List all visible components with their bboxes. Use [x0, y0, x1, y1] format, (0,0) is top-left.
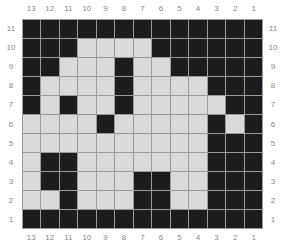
filled-cell[interactable] [171, 39, 188, 57]
filled-cell[interactable] [23, 96, 40, 114]
empty-cell[interactable] [189, 191, 206, 209]
filled-cell[interactable] [134, 20, 151, 38]
filled-cell[interactable] [23, 58, 40, 76]
empty-cell[interactable] [152, 115, 169, 133]
filled-cell[interactable] [134, 172, 151, 190]
empty-cell[interactable] [115, 172, 132, 190]
empty-cell[interactable] [78, 77, 95, 95]
filled-cell[interactable] [78, 20, 95, 38]
filled-cell[interactable] [60, 191, 77, 209]
filled-cell[interactable] [226, 191, 243, 209]
empty-cell[interactable] [97, 39, 114, 57]
filled-cell[interactable] [152, 172, 169, 190]
filled-cell[interactable] [208, 20, 225, 38]
empty-cell[interactable] [41, 115, 58, 133]
empty-cell[interactable] [23, 172, 40, 190]
filled-cell[interactable] [134, 210, 151, 228]
empty-cell[interactable] [78, 58, 95, 76]
filled-cell[interactable] [41, 58, 58, 76]
empty-cell[interactable] [97, 77, 114, 95]
filled-cell[interactable] [208, 153, 225, 171]
filled-cell[interactable] [189, 39, 206, 57]
filled-cell[interactable] [97, 20, 114, 38]
filled-cell[interactable] [115, 58, 132, 76]
empty-cell[interactable] [152, 77, 169, 95]
filled-cell[interactable] [226, 77, 243, 95]
empty-cell[interactable] [134, 58, 151, 76]
empty-cell[interactable] [171, 172, 188, 190]
empty-cell[interactable] [78, 172, 95, 190]
filled-cell[interactable] [226, 153, 243, 171]
filled-cell[interactable] [23, 210, 40, 228]
empty-cell[interactable] [41, 134, 58, 152]
filled-cell[interactable] [189, 58, 206, 76]
filled-cell[interactable] [115, 210, 132, 228]
filled-cell[interactable] [134, 191, 151, 209]
empty-cell[interactable] [60, 115, 77, 133]
empty-cell[interactable] [115, 115, 132, 133]
filled-cell[interactable] [245, 77, 262, 95]
empty-cell[interactable] [60, 77, 77, 95]
filled-cell[interactable] [189, 20, 206, 38]
filled-cell[interactable] [245, 172, 262, 190]
filled-cell[interactable] [78, 210, 95, 228]
empty-cell[interactable] [23, 134, 40, 152]
empty-cell[interactable] [171, 115, 188, 133]
empty-cell[interactable] [171, 96, 188, 114]
filled-cell[interactable] [60, 172, 77, 190]
empty-cell[interactable] [97, 172, 114, 190]
filled-cell[interactable] [189, 210, 206, 228]
empty-cell[interactable] [171, 77, 188, 95]
empty-cell[interactable] [189, 134, 206, 152]
empty-cell[interactable] [189, 153, 206, 171]
filled-cell[interactable] [208, 115, 225, 133]
filled-cell[interactable] [152, 210, 169, 228]
empty-cell[interactable] [78, 134, 95, 152]
empty-cell[interactable] [23, 191, 40, 209]
empty-cell[interactable] [134, 96, 151, 114]
empty-cell[interactable] [78, 191, 95, 209]
filled-cell[interactable] [23, 39, 40, 57]
filled-cell[interactable] [208, 172, 225, 190]
filled-cell[interactable] [23, 20, 40, 38]
filled-cell[interactable] [226, 134, 243, 152]
empty-cell[interactable] [97, 58, 114, 76]
empty-cell[interactable] [60, 134, 77, 152]
filled-cell[interactable] [226, 96, 243, 114]
filled-cell[interactable] [60, 20, 77, 38]
empty-cell[interactable] [152, 96, 169, 114]
empty-cell[interactable] [226, 115, 243, 133]
empty-cell[interactable] [189, 172, 206, 190]
empty-cell[interactable] [115, 191, 132, 209]
filled-cell[interactable] [226, 58, 243, 76]
empty-cell[interactable] [60, 58, 77, 76]
filled-cell[interactable] [115, 96, 132, 114]
empty-cell[interactable] [115, 39, 132, 57]
filled-cell[interactable] [208, 210, 225, 228]
empty-cell[interactable] [97, 134, 114, 152]
filled-cell[interactable] [60, 96, 77, 114]
filled-cell[interactable] [41, 39, 58, 57]
empty-cell[interactable] [171, 153, 188, 171]
empty-cell[interactable] [189, 96, 206, 114]
filled-cell[interactable] [226, 172, 243, 190]
filled-cell[interactable] [41, 210, 58, 228]
filled-cell[interactable] [41, 172, 58, 190]
empty-cell[interactable] [134, 153, 151, 171]
empty-cell[interactable] [23, 115, 40, 133]
filled-cell[interactable] [152, 191, 169, 209]
empty-cell[interactable] [41, 77, 58, 95]
filled-cell[interactable] [208, 134, 225, 152]
filled-cell[interactable] [97, 115, 114, 133]
empty-cell[interactable] [97, 96, 114, 114]
filled-cell[interactable] [115, 20, 132, 38]
empty-cell[interactable] [134, 115, 151, 133]
empty-cell[interactable] [41, 191, 58, 209]
filled-cell[interactable] [171, 20, 188, 38]
filled-cell[interactable] [23, 77, 40, 95]
filled-cell[interactable] [60, 39, 77, 57]
filled-cell[interactable] [245, 96, 262, 114]
filled-cell[interactable] [226, 20, 243, 38]
filled-cell[interactable] [226, 210, 243, 228]
empty-cell[interactable] [152, 153, 169, 171]
